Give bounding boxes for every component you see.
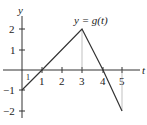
chart-canvas: y t 1 2 3 4 5 2 1 −1 −2 1 y = g(t)	[0, 0, 147, 125]
y-tick-label-2: 2	[9, 23, 15, 35]
y-tick-label-neg1: −1	[3, 84, 15, 96]
graph-of-g: y t 1 2 3 4 5 2 1 −1 −2 1 y = g(t)	[0, 0, 147, 125]
x-tick-label-2: 2	[59, 75, 65, 87]
y-tick-label-1: 1	[10, 44, 16, 56]
slope-marker: 1	[26, 73, 30, 82]
x-tick-label-1: 1	[39, 75, 45, 87]
x-tick-label-4: 4	[100, 75, 106, 87]
curve-label: y = g(t)	[73, 14, 108, 27]
y-axis-label: y	[17, 4, 23, 16]
x-tick-label-3: 3	[79, 75, 85, 87]
t-axis-label: t	[142, 64, 146, 76]
y-tick-label-neg2: −2	[3, 105, 15, 117]
